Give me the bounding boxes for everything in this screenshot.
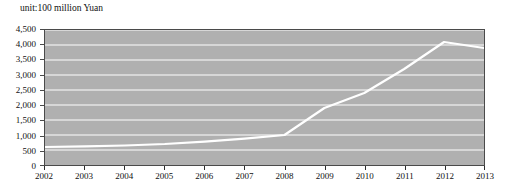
x-tick-label: 2002: [35, 171, 53, 182]
y-tick-label: 3,000: [16, 70, 36, 79]
y-axis-labels: 05001,0001,5002,0002,5003,0003,5004,0004…: [0, 29, 38, 166]
x-tick-label: 2006: [195, 171, 213, 182]
x-tick-mark: [365, 166, 366, 170]
y-tick-label: 1,000: [16, 131, 36, 140]
x-tick-label: 2003: [75, 171, 93, 182]
y-tick-label: 1,500: [16, 116, 36, 125]
y-tick-label: 2,500: [16, 85, 36, 94]
x-tick-label: 2009: [316, 171, 334, 182]
x-tick-label: 2010: [356, 171, 374, 182]
x-tick-mark: [244, 166, 245, 170]
x-tick-label: 2012: [436, 171, 454, 182]
x-tick-label: 2005: [155, 171, 173, 182]
x-tick-mark: [164, 166, 165, 170]
x-tick-label: 2013: [476, 171, 494, 182]
x-axis-ticks: [44, 166, 485, 170]
x-tick-mark: [84, 166, 85, 170]
x-tick-label: 2004: [115, 171, 133, 182]
x-tick-mark: [124, 166, 125, 170]
x-tick-label: 2007: [235, 171, 253, 182]
y-tick-label: 4,000: [16, 40, 36, 49]
y-tick-label: 2,000: [16, 101, 36, 110]
x-axis-labels: 2002200320042005200620072008200920102011…: [0, 171, 506, 185]
x-tick-mark: [44, 166, 45, 170]
x-tick-label: 2011: [396, 171, 414, 182]
chart-unit-label: unit:100 million Yuan: [20, 2, 103, 14]
data-series-line: [45, 30, 484, 165]
x-tick-mark: [285, 166, 286, 170]
x-tick-mark: [405, 166, 406, 170]
plot-area: [44, 29, 485, 166]
series-polyline: [45, 42, 484, 147]
x-tick-mark: [484, 166, 485, 170]
y-tick-label: 4,500: [16, 25, 36, 34]
x-tick-mark: [204, 166, 205, 170]
x-tick-mark: [445, 166, 446, 170]
y-tick-label: 0: [32, 162, 37, 171]
chart-figure: unit:100 million Yuan 05001,0001,5002,00…: [0, 0, 506, 188]
y-tick-label: 3,500: [16, 55, 36, 64]
x-tick-mark: [325, 166, 326, 170]
y-tick-label: 500: [23, 146, 37, 155]
x-tick-label: 2008: [276, 171, 294, 182]
